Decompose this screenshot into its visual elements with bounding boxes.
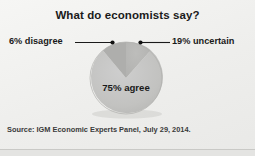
slice-label-disagree: 6% disagree: [9, 36, 63, 46]
slice-label-agree: 75% agree: [94, 82, 158, 93]
source-note: Source: IGM Economic Experts Panel, July…: [7, 125, 191, 134]
slice-label-uncertain: 19% uncertain: [172, 36, 234, 46]
pie-chart-figure: What do economists say?: [0, 0, 255, 156]
leader-dot-icon-uncertain: [138, 40, 142, 44]
bottom-band: [0, 150, 255, 156]
leader-dot-icon-disagree: [110, 40, 114, 44]
